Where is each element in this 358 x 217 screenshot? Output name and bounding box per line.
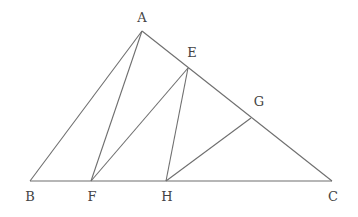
point-labels: A B C E F G H: [25, 10, 338, 204]
label-E: E: [187, 45, 197, 60]
label-H: H: [161, 189, 172, 204]
label-B: B: [25, 189, 35, 204]
label-G: G: [254, 94, 264, 109]
segment-EH: [166, 68, 188, 181]
segment-AB: [30, 31, 142, 181]
label-C: C: [328, 189, 338, 204]
label-A: A: [136, 10, 147, 25]
triangle-diagram: A B C E F G H: [0, 0, 358, 217]
segment-HG: [166, 118, 251, 181]
segment-AF: [91, 31, 142, 181]
label-F: F: [87, 189, 96, 204]
segments: [30, 31, 332, 181]
segment-FE: [91, 68, 188, 181]
